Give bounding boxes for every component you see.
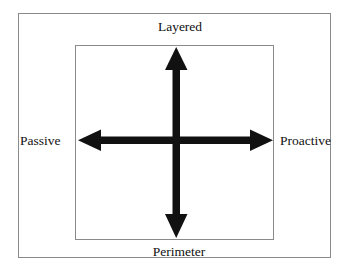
axis-label-top: Layered	[4, 20, 356, 34]
diagram-canvas: Layered Perimeter Passive Proactive	[0, 0, 356, 274]
axis-label-left: Passive	[20, 134, 61, 148]
axis-label-right: Proactive	[280, 134, 331, 148]
inner-plot-box	[75, 45, 274, 240]
axis-label-bottom: Perimeter	[2, 245, 356, 259]
